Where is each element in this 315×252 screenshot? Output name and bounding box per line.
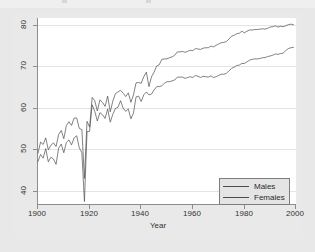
legend-label-females: Females xyxy=(254,193,285,202)
chart-legend[interactable]: Males Females xyxy=(219,178,290,205)
y-tick-label-40: 40 xyxy=(19,180,28,202)
legend-item-females[interactable]: Females xyxy=(223,192,286,203)
legend-label-males: Males xyxy=(254,182,275,191)
plot-area xyxy=(37,18,296,205)
legend-item-males[interactable]: Males xyxy=(223,181,286,192)
y-tick-label-60: 60 xyxy=(19,97,28,119)
series-layer xyxy=(38,18,296,204)
x-tick-label-1920: 1920 xyxy=(72,209,106,218)
x-tick-label-1960: 1960 xyxy=(175,209,209,218)
x-tick-label-1940: 1940 xyxy=(123,209,157,218)
chart-screenshot: 80 70 60 50 40 1900 xyxy=(0,0,315,252)
top-edge-artifact xyxy=(0,0,315,8)
y-tick-label-70: 70 xyxy=(19,55,28,77)
x-tick-label-2000: 2000 xyxy=(278,209,312,218)
y-tick-label-50: 50 xyxy=(19,138,28,160)
x-tick-label-1900: 1900 xyxy=(20,209,54,218)
x-axis-title: Year xyxy=(14,221,302,230)
legend-line-swatch-males xyxy=(223,186,249,187)
x-tick-label-1980: 1980 xyxy=(227,209,261,218)
artifact-glyph xyxy=(146,0,151,3)
y-tick-label-80: 80 xyxy=(19,14,28,36)
figure-canvas: 80 70 60 50 40 1900 xyxy=(14,13,302,239)
artifact-glyph xyxy=(62,0,67,3)
series-line-females xyxy=(38,24,293,178)
legend-line-swatch-females xyxy=(223,197,249,198)
